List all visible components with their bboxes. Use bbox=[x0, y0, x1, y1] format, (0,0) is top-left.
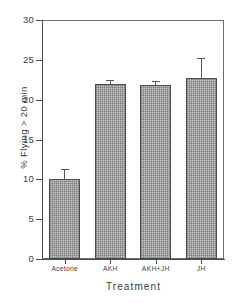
x-axis-tick bbox=[156, 259, 157, 264]
bar bbox=[140, 85, 171, 259]
x-axis-line bbox=[42, 259, 225, 260]
error-bar-stem bbox=[64, 169, 65, 179]
x-axis-tick-label: AKH+JH bbox=[133, 265, 179, 272]
error-bar-cap bbox=[61, 169, 69, 170]
y-axis-line bbox=[42, 20, 43, 260]
error-bar-stem bbox=[201, 58, 202, 78]
error-bar-cap bbox=[197, 58, 205, 59]
y-axis-tick-label: 0 bbox=[8, 254, 34, 264]
bar-chart-figure: 051015202530 % Flying > 20 min AcetoneAK… bbox=[0, 0, 241, 303]
x-axis-tick bbox=[65, 259, 66, 264]
y-axis-tick bbox=[36, 20, 42, 21]
x-axis-tick bbox=[201, 259, 202, 264]
bar bbox=[95, 84, 126, 259]
y-axis-tick bbox=[36, 179, 42, 180]
y-axis-tick bbox=[36, 219, 42, 220]
x-axis-tick-label: AKH bbox=[88, 265, 134, 272]
error-bar-cap bbox=[106, 80, 114, 81]
y-axis-tick bbox=[36, 140, 42, 141]
x-axis-tick-label: JH bbox=[179, 265, 225, 272]
x-axis-tick-label: Acetone bbox=[42, 265, 88, 272]
y-axis-title: % Flying > 20 min bbox=[18, 58, 29, 198]
y-axis-tick-label: 30 bbox=[8, 15, 34, 25]
bar-group bbox=[49, 20, 80, 259]
bar bbox=[49, 179, 80, 259]
y-axis-tick bbox=[36, 60, 42, 61]
error-bar-cap bbox=[152, 81, 160, 82]
x-axis-tick bbox=[110, 259, 111, 264]
y-axis-tick-label: 5 bbox=[8, 214, 34, 224]
bar-group bbox=[140, 20, 171, 259]
x-axis-title: Treatment bbox=[42, 281, 225, 292]
bar-group bbox=[95, 20, 126, 259]
bar-group bbox=[186, 20, 217, 259]
bar bbox=[186, 78, 217, 259]
y-axis-tick bbox=[36, 100, 42, 101]
